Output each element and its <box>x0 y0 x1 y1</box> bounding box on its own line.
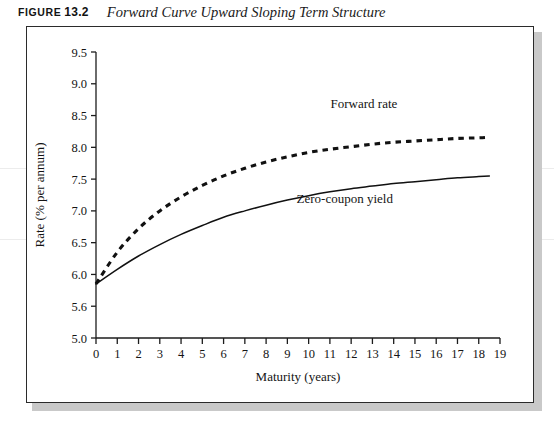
x-tick-label: 18 <box>472 347 485 361</box>
x-tick-label: 13 <box>366 347 379 361</box>
y-tick-label: 7.5 <box>71 173 87 187</box>
x-tick-label: 11 <box>324 347 336 361</box>
x-tick-label: 17 <box>451 347 464 361</box>
y-tick-label: 9.0 <box>71 77 87 91</box>
x-tick-label: 4 <box>178 347 185 361</box>
y-tick-label: 6.0 <box>71 268 87 282</box>
series-label-forward-rate: Forward rate <box>331 96 398 111</box>
term-structure-chart: 5.05.66.06.57.07.58.08.59.09.5 012345678… <box>0 0 554 425</box>
series-line-forward-rate <box>96 137 489 284</box>
x-tick-label: 8 <box>263 347 269 361</box>
x-tick-label: 9 <box>284 347 290 361</box>
series-label-zero-coupon-yield: Zero-coupon yield <box>297 191 394 206</box>
series-line-zero-coupon-yield <box>96 176 489 284</box>
y-axis-title: Rate (% per annum) <box>32 142 47 247</box>
y-tick-label: 9.5 <box>71 46 87 60</box>
data-series <box>96 137 489 284</box>
y-axis-ticks: 5.05.66.06.57.07.58.08.59.09.5 <box>71 46 96 346</box>
x-tick-label: 6 <box>220 347 226 361</box>
x-tick-label: 2 <box>135 347 141 361</box>
x-tick-label: 16 <box>430 347 443 361</box>
x-axis-title: Maturity (years) <box>256 369 341 384</box>
x-tick-label: 14 <box>387 347 400 361</box>
y-tick-label: 5.0 <box>71 332 87 346</box>
y-tick-label: 8.5 <box>71 109 87 123</box>
x-tick-label: 19 <box>494 347 507 361</box>
figure-page: FIGURE13.2Forward Curve Upward Sloping T… <box>0 0 554 425</box>
y-tick-label: 5.6 <box>71 300 87 314</box>
y-tick-label: 8.0 <box>71 141 87 155</box>
x-axis-ticks: 012345678910111213141516171819 <box>93 338 506 361</box>
x-tick-label: 15 <box>409 347 422 361</box>
chart-plot: 5.05.66.06.57.07.58.08.59.09.5 012345678… <box>0 0 554 425</box>
x-tick-label: 10 <box>302 347 315 361</box>
y-tick-label: 7.0 <box>71 204 87 218</box>
x-tick-label: 1 <box>114 347 120 361</box>
x-tick-label: 5 <box>199 347 205 361</box>
y-tick-label: 6.5 <box>71 236 87 250</box>
x-tick-label: 7 <box>242 347 248 361</box>
x-tick-label: 12 <box>345 347 358 361</box>
x-tick-label: 0 <box>93 347 99 361</box>
x-tick-label: 3 <box>157 347 163 361</box>
